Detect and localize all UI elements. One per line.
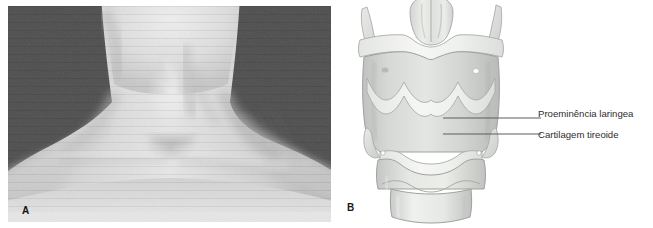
right-cricothyroid-joint: [477, 151, 481, 155]
panel-b-illustration: Proeminência laringea Cartilagem tireoid…: [336, 0, 653, 228]
callout-label-cartilagem-tireoide: Cartilagem tireoide: [538, 130, 619, 140]
photo-bottom-band: [8, 212, 331, 222]
first-tracheal-ring: [390, 189, 471, 223]
left-lamina-foramen: [382, 67, 389, 72]
panel-letter-b: B: [347, 203, 355, 213]
panel-letter-a: A: [22, 206, 30, 216]
figure-root: A: [0, 0, 653, 228]
cricoid-left-highlight: [386, 176, 387, 190]
trachea-left-highlight: [397, 196, 399, 218]
trachea-right-shade: [463, 196, 465, 218]
right-lamina-foramen: [473, 69, 479, 74]
left-cricothyroid-joint: [381, 151, 385, 155]
panel-a-photograph: A: [8, 6, 331, 222]
neck-photograph-graphic: [8, 6, 331, 222]
callout-label-proeminencia-laringea: Proeminência laringea: [538, 109, 633, 119]
